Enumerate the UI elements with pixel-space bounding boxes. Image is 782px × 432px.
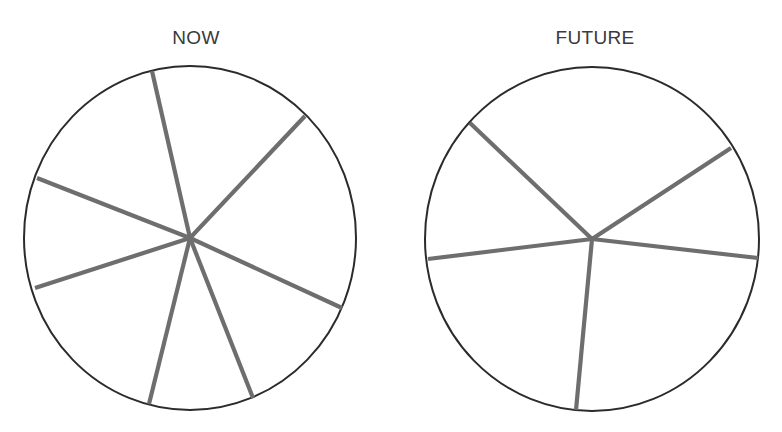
now-pie-chart	[24, 66, 356, 410]
pie-charts-canvas	[0, 0, 782, 432]
future-pie-chart	[425, 67, 759, 411]
